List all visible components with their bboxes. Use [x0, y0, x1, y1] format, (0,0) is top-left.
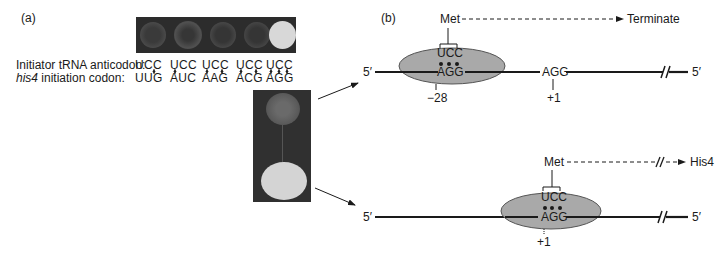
bottom-scenario [375, 157, 688, 234]
top-outcome-terminate: Terminate [627, 13, 680, 26]
arrow-to-bottom-scenario [315, 188, 355, 205]
top-scenario [375, 16, 688, 90]
bottom-anticodon: UCC [541, 191, 567, 204]
bottom-five-prime-right: 5′ [692, 211, 701, 224]
top-five-prime-right: 5′ [692, 66, 701, 79]
top-five-prime-left: 5′ [363, 66, 372, 79]
top-position-plus1: +1 [547, 92, 561, 105]
top-met-label: Met [440, 13, 460, 26]
bottom-codon: AGG [541, 211, 568, 224]
bottom-position-plus1: +1 [537, 236, 551, 249]
bottom-outcome-his4: His4 [690, 156, 714, 169]
top-codon: AGG [437, 66, 464, 79]
top-position-minus28: −28 [427, 92, 447, 105]
arrow-to-top-scenario [318, 83, 358, 99]
top-downstream-codon: AGG [542, 66, 569, 79]
bottom-five-prime-left: 5′ [363, 211, 372, 224]
bottom-met-label: Met [544, 156, 564, 169]
top-anticodon: UCC [437, 47, 463, 60]
